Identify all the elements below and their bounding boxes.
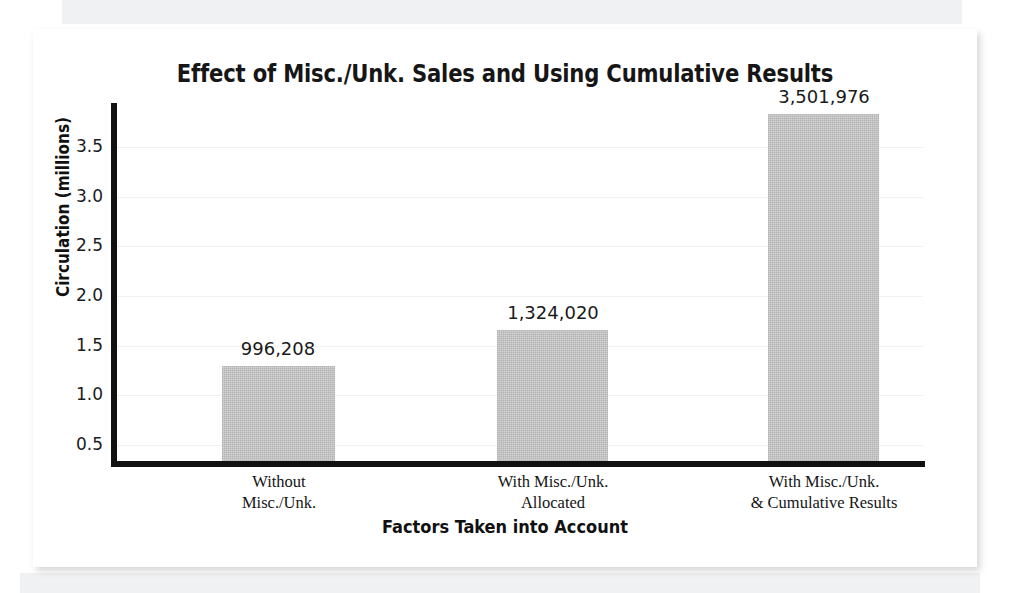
y-tick-label-0-5: 0.5 xyxy=(45,436,103,453)
scan-artifact-band-bottom xyxy=(20,573,980,593)
x-category-label-1-line2: Misc./Unk. xyxy=(193,492,365,513)
bar-value-label-1: 996,208 xyxy=(208,338,348,359)
chart-card: Effect of Misc./Unk. Sales and Using Cum… xyxy=(33,29,977,567)
bar-value-label-2: 1,324,020 xyxy=(483,302,623,323)
chart-screenshot: Effect of Misc./Unk. Sales and Using Cum… xyxy=(0,0,1010,593)
x-category-label-3-line2: & Cumulative Results xyxy=(717,492,931,513)
y-axis-title: Circulation (millions) xyxy=(53,97,73,317)
x-axis-line xyxy=(111,461,925,467)
y-tick-label-1-0: 1.0 xyxy=(45,386,103,403)
bar-with-misc-unk-allocated[interactable] xyxy=(497,330,608,461)
bar-value-label-3: 3,501,976 xyxy=(754,86,894,107)
x-category-label-3-line1: With Misc./Unk. xyxy=(717,471,931,492)
y-tick-label-1-5: 1.5 xyxy=(45,337,103,354)
x-category-label-2-line1: With Misc./Unk. xyxy=(467,471,639,492)
bar-with-misc-unk-cumulative[interactable] xyxy=(768,114,879,461)
bar-without-misc-unk[interactable] xyxy=(222,366,335,461)
x-category-label-2-line2: Allocated xyxy=(467,492,639,513)
scan-artifact-band-top xyxy=(62,0,962,24)
x-category-label-1: Without Misc./Unk. xyxy=(193,471,365,513)
x-category-label-2: With Misc./Unk. Allocated xyxy=(467,471,639,513)
y-axis-line xyxy=(111,103,117,467)
x-axis-title: Factors Taken into Account xyxy=(33,516,977,537)
x-category-label-3: With Misc./Unk. & Cumulative Results xyxy=(717,471,931,513)
x-category-label-1-line1: Without xyxy=(193,471,365,492)
plot-area: 3.5 3.0 2.5 2.0 1.5 1.0 0.5 xyxy=(33,29,977,567)
